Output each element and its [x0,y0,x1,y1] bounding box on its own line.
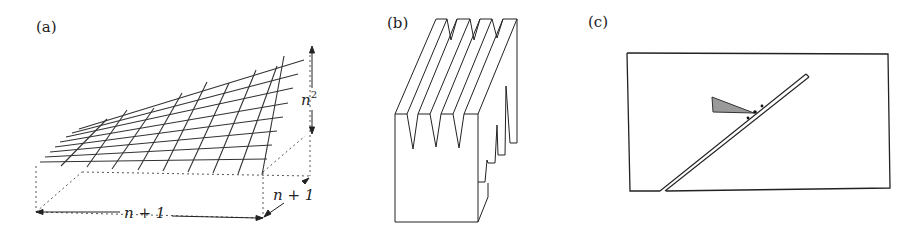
panel-c: (c) [540,0,918,232]
depth-label: n + 1 [273,186,314,204]
front-face [395,114,478,222]
ramp [660,74,809,191]
frame-top-right [627,53,890,191]
ramp-wedge-diagram [540,0,918,232]
grid-lines [40,56,304,175]
grooved-block-diagram [340,0,540,232]
front-groove-edge [395,114,478,149]
grid-surface-diagram: n2 n + 1 n + 1 [0,0,340,232]
panel-b: (b) [340,0,540,232]
height-label: n2 [301,89,317,109]
panel-a: (a) [0,0,340,232]
frame-left-bottom [627,53,660,191]
wedge [712,97,754,113]
width-label: n + 1 [124,204,165,222]
